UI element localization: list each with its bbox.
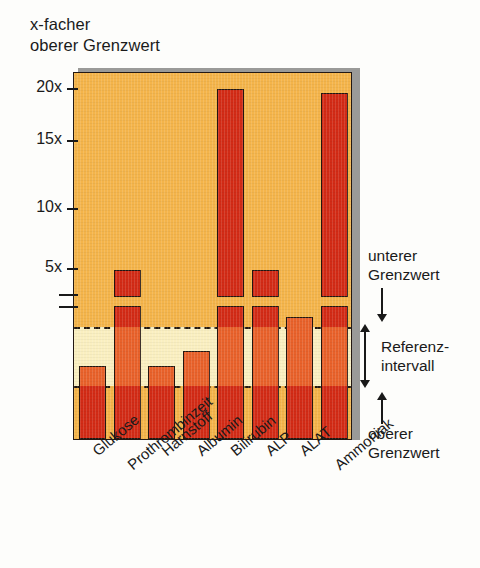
annotation-referenzintervall: Referenz-intervall xyxy=(381,337,449,375)
bar-bilirubin-inband xyxy=(217,327,244,386)
referenzintervall-arrow-head-top xyxy=(360,324,370,332)
chart-title: x-facheroberer Grenzwert xyxy=(30,14,160,56)
referenzintervall-arrow-shaft xyxy=(364,330,366,382)
y-tick-10x xyxy=(67,208,78,210)
bar-alat-inband xyxy=(286,317,313,387)
plot-area xyxy=(73,72,352,440)
y-tick-15x xyxy=(67,140,78,142)
bar-alp-upper xyxy=(252,270,279,297)
oberer-grenzwert-arrow-head xyxy=(377,392,387,400)
annotation-unterer-grenzwert-line-1: unterer xyxy=(368,247,417,264)
y-tick-label-15x: 15x xyxy=(14,130,62,148)
bar-ammoniak-inband xyxy=(321,327,348,386)
unterer-grenzwert-arrow-shaft xyxy=(381,288,383,316)
y-tick-20x xyxy=(67,88,78,90)
annotation-referenzintervall-line-1: Referenz- xyxy=(381,338,449,355)
annotation-oberer-grenzwert-line-1: oberer xyxy=(368,425,413,442)
chart-title-line-1: x-facher xyxy=(30,15,90,33)
unterer-grenzwert-arrow-head xyxy=(377,314,387,322)
bar-series xyxy=(74,73,351,439)
y-tick-label-20x: 20x xyxy=(14,78,62,96)
annotation-oberer-grenzwert-line-2: Grenzwert xyxy=(368,444,440,461)
bar-alp-inband xyxy=(252,327,279,386)
bar-glukose-inband xyxy=(79,366,106,386)
oberer-grenzwert-arrow-shaft xyxy=(381,398,383,424)
bar-bilirubin-upper xyxy=(217,89,244,297)
annotation-oberer-grenzwert: obererGrenzwert xyxy=(368,424,440,462)
annotation-unterer-grenzwert: untererGrenzwert xyxy=(368,246,440,284)
referenzintervall-arrow-head-bottom xyxy=(360,380,370,388)
annotation-referenzintervall-line-2: intervall xyxy=(381,357,434,374)
chart-title-line-2: oberer Grenzwert xyxy=(30,36,160,54)
annotation-unterer-grenzwert-line-2: Grenzwert xyxy=(368,266,440,283)
chart-figure: x-facheroberer Grenzwert 20x15x10x5x Glu… xyxy=(0,0,480,568)
bar-harnstoff-inband xyxy=(148,366,175,386)
y-tick-label-10x: 10x xyxy=(14,198,62,216)
bar-ammoniak-upper xyxy=(321,93,348,297)
axis-break-lower xyxy=(59,306,78,308)
bar-albumin-inband xyxy=(183,351,210,386)
y-tick-5x xyxy=(67,268,78,270)
axis-break-upper xyxy=(59,294,78,296)
bar-prothrombinzeit-upper xyxy=(114,270,141,297)
y-tick-label-5x: 5x xyxy=(14,258,62,276)
bar-prothrombinzeit-inband xyxy=(114,327,141,386)
